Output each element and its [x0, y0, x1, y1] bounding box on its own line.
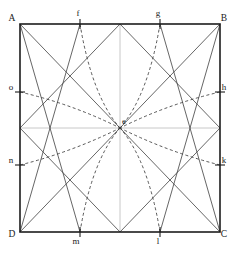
point-label-l: l [157, 236, 160, 246]
point-label-k: k [222, 155, 227, 165]
clipped-caption-text [2, 0, 122, 5]
dashed-arc [80, 128, 120, 232]
point-label-m: m [72, 236, 79, 246]
dashed-arc [120, 128, 160, 232]
square-construction-diagram: A B C D f g h k l m n o e [0, 0, 240, 258]
point-label-g: g [156, 8, 161, 18]
point-label-n: n [9, 155, 14, 165]
point-label-o: o [9, 82, 14, 92]
vertex-label-A: A [9, 13, 16, 23]
point-label-h: h [222, 82, 227, 92]
dashed-arc [120, 24, 160, 128]
center-point-label-e: e [122, 116, 126, 126]
dashed-arc [80, 24, 120, 128]
vertex-label-C: C [221, 229, 227, 239]
geometry-figure: A B C D f g h k l m n o e [0, 0, 240, 258]
vertex-label-B: B [221, 13, 227, 23]
dashed-arc [120, 92, 220, 128]
dashed-arc [20, 128, 120, 165]
dashed-arc [120, 128, 220, 165]
dashed-arc [20, 92, 120, 128]
vertex-label-D: D [9, 229, 16, 239]
point-label-f: f [77, 8, 80, 18]
center-point-group: e [122, 116, 126, 126]
